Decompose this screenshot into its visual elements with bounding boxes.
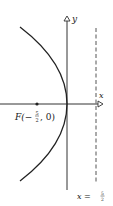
y-axis-label: y bbox=[71, 14, 78, 24]
directrix-frac-denominator: 2 bbox=[101, 197, 104, 202]
focus-label-suffix: , 0) bbox=[40, 112, 55, 122]
focus-label-prefix: F(− bbox=[14, 112, 32, 122]
focus-frac-denominator: 2 bbox=[36, 117, 39, 123]
x-axis-label: x bbox=[99, 91, 104, 100]
directrix-label-prefix: x = bbox=[77, 192, 91, 201]
y-axis-arrow-icon bbox=[64, 16, 70, 21]
x-axis-arrow-icon bbox=[98, 101, 103, 107]
directrix-frac-numerator: 5 bbox=[101, 191, 104, 196]
directrix-label: x = 5 2 bbox=[77, 191, 105, 203]
focus-frac-numerator: 5 bbox=[36, 110, 39, 116]
focus-point bbox=[35, 102, 38, 105]
focus-label: F(− 5 2 , 0) bbox=[14, 110, 55, 123]
parabola-diagram: y x F(− 5 2 , 0) x = 5 2 bbox=[0, 0, 113, 206]
